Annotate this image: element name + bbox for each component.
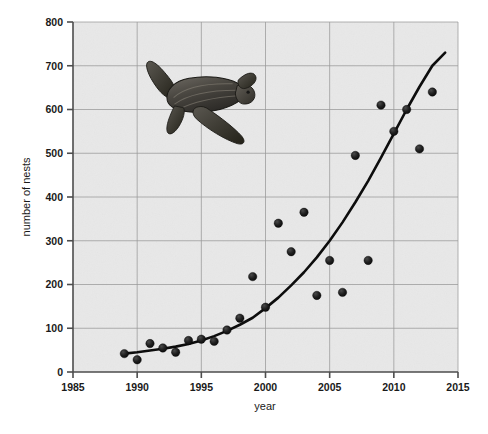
y-tick-label: 100 <box>45 322 63 334</box>
data-point <box>248 272 256 280</box>
y-tick-label: 300 <box>45 235 63 247</box>
data-point <box>184 336 192 344</box>
data-point <box>261 303 269 311</box>
data-point <box>210 337 218 345</box>
data-point <box>325 256 333 264</box>
data-point <box>133 356 141 364</box>
data-point <box>313 291 321 299</box>
data-point <box>146 339 154 347</box>
y-tick-label: 600 <box>45 103 63 115</box>
data-point <box>287 247 295 255</box>
data-point <box>351 151 359 159</box>
x-tick-label: 2010 <box>382 381 406 393</box>
y-tick-label: 800 <box>45 16 63 28</box>
y-tick-label: 500 <box>45 147 63 159</box>
y-tick-label: 700 <box>45 60 63 72</box>
data-point <box>364 256 372 264</box>
y-axis-title: number of nests <box>20 157 32 236</box>
x-tick-label: 1990 <box>125 381 149 393</box>
data-point <box>300 208 308 216</box>
data-point <box>120 349 128 357</box>
y-tick-label: 400 <box>45 191 63 203</box>
y-tick-label: 0 <box>57 366 63 378</box>
data-point <box>274 219 282 227</box>
scatter-chart: 0100200300400500600700800 19851990199520… <box>0 0 488 434</box>
data-point <box>197 335 205 343</box>
data-point <box>159 344 167 352</box>
data-point <box>171 348 179 356</box>
data-point <box>415 145 423 153</box>
x-tick-label: 2005 <box>318 381 342 393</box>
data-point <box>390 127 398 135</box>
x-tick-label: 2000 <box>254 381 278 393</box>
x-axis-title: year <box>254 400 276 412</box>
turtle-eye <box>246 90 249 93</box>
x-tick-label: 1995 <box>190 381 214 393</box>
chart-figure: 0100200300400500600700800 19851990199520… <box>0 0 488 434</box>
data-point <box>377 101 385 109</box>
y-tick-label: 200 <box>45 278 63 290</box>
data-point <box>402 105 410 113</box>
data-point <box>236 314 244 322</box>
data-point <box>338 288 346 296</box>
data-point <box>223 326 231 334</box>
x-tick-label: 2015 <box>446 381 470 393</box>
data-point <box>428 88 436 96</box>
x-tick-label: 1985 <box>61 381 85 393</box>
